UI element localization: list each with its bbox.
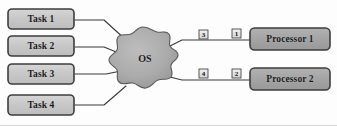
task-label-3: Task 3 [8, 64, 74, 84]
badge-box-3 [199, 30, 208, 39]
processor-node-1[interactable]: Processor 1 [250, 28, 330, 50]
badge-shapes [199, 29, 241, 78]
os-label: OS [111, 27, 179, 89]
badge-box-1 [232, 29, 241, 38]
task-node-2[interactable]: Task 2 [8, 36, 74, 56]
task-label-2: Task 2 [8, 36, 74, 56]
task-node-4[interactable]: Task 4 [8, 95, 74, 115]
diagram-canvas: Task 1 Task 2 Task 3 Task 4 OS Processor… [0, 0, 337, 126]
processor-label-1: Processor 1 [250, 28, 330, 50]
task-node-3[interactable]: Task 3 [8, 64, 74, 84]
processor-node-2[interactable]: Processor 2 [250, 68, 330, 90]
processor-label-2: Processor 2 [250, 68, 330, 90]
os-node[interactable]: OS [111, 27, 179, 89]
badge-box-2 [232, 69, 241, 78]
task-label-1: Task 1 [8, 9, 74, 29]
badge-box-4 [199, 69, 208, 78]
task-node-1[interactable]: Task 1 [8, 9, 74, 29]
task-label-4: Task 4 [8, 95, 74, 115]
